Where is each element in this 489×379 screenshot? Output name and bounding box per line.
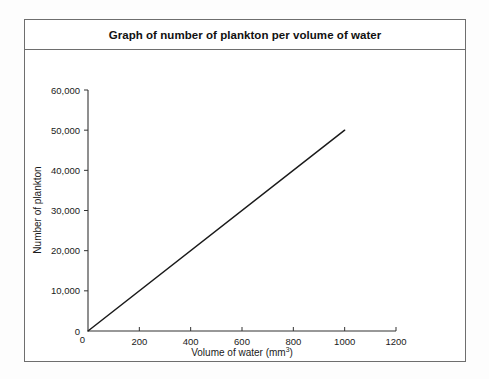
y-axis-title: Number of plankton [32, 166, 43, 253]
chart-title: Graph of number of plankton per volume o… [109, 29, 382, 41]
y-tick-label: 30,000 [51, 205, 80, 216]
y-tick-label: 10,000 [51, 285, 80, 296]
y-tick-label: 60,000 [51, 85, 80, 96]
chart-title-band: Graph of number of plankton per volume o… [25, 20, 465, 50]
data-series-group [88, 130, 345, 331]
y-tick-label: 20,000 [51, 245, 80, 256]
x-axis-title-close-paren: ) [289, 347, 292, 358]
y-tick-label: 50,000 [51, 125, 80, 136]
chart-frame: Graph of number of plankton per volume o… [24, 19, 466, 362]
figure-root: Graph of number of plankton per volume o… [0, 0, 489, 379]
x-axis-ticks: 020040060080010001200 [80, 327, 407, 347]
x-tick-label: 400 [183, 336, 199, 347]
x-axis-title-main: Volume of water (mm [191, 347, 285, 358]
data-line [88, 130, 345, 331]
plot-area: 010,00020,00030,00040,00050,00060,000 02… [25, 50, 465, 361]
x-tick-label: 600 [234, 336, 250, 347]
y-tick-label: 40,000 [51, 165, 80, 176]
x-axis-title: Volume of water (mm3) [191, 346, 293, 358]
x-tick-label: 200 [131, 336, 147, 347]
x-tick-label: 1200 [385, 336, 406, 347]
x-tick-label: 1000 [334, 336, 355, 347]
y-axis-ticks: 010,00020,00030,00040,00050,00060,000 [51, 85, 88, 337]
origin-label: 0 [80, 334, 85, 345]
plot-svg: 010,00020,00030,00040,00050,00060,000 02… [25, 50, 465, 361]
